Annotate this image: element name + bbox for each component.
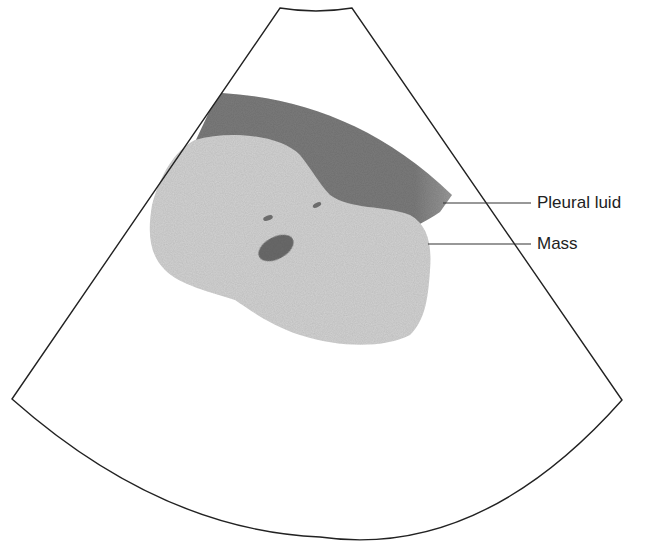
label-pleural-fluid: Pleural luid — [537, 194, 621, 211]
ultrasound-diagram — [0, 0, 646, 543]
label-mass: Mass — [537, 235, 578, 252]
